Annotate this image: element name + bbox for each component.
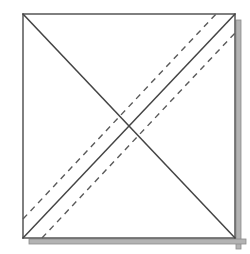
shadow-bottom-edge	[29, 239, 246, 244]
square-fold-diagram	[0, 0, 250, 254]
fold-diagram-container	[0, 0, 250, 254]
shadow-right-edge	[236, 20, 241, 249]
